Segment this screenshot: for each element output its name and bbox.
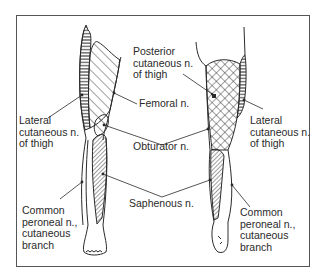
label-common-peroneal-right: Common peroneal n., cutaneous branch — [240, 207, 295, 253]
right-saphenous-region — [211, 149, 224, 220]
label-common-peroneal-left: Common peroneal n., cutaneous branch — [22, 205, 77, 251]
label-lateral-cutaneous-left: Lateral cutaneous n. of thigh — [19, 115, 79, 150]
right-posterior-cutaneous-region — [206, 60, 240, 150]
label-saphenous: Saphenous n. — [129, 198, 194, 210]
right-foot — [212, 222, 228, 253]
label-posterior-cutaneous: Posterior cutaneous n. of thigh — [133, 46, 193, 81]
label-lateral-cutaneous-right: Lateral cutaneous n. of thigh — [250, 115, 310, 150]
right-leg-posterior — [196, 27, 246, 253]
left-leg-anterior — [80, 25, 121, 255]
label-femoral: Femoral n. — [139, 98, 189, 110]
label-obturator: Obturator n. — [133, 141, 189, 153]
